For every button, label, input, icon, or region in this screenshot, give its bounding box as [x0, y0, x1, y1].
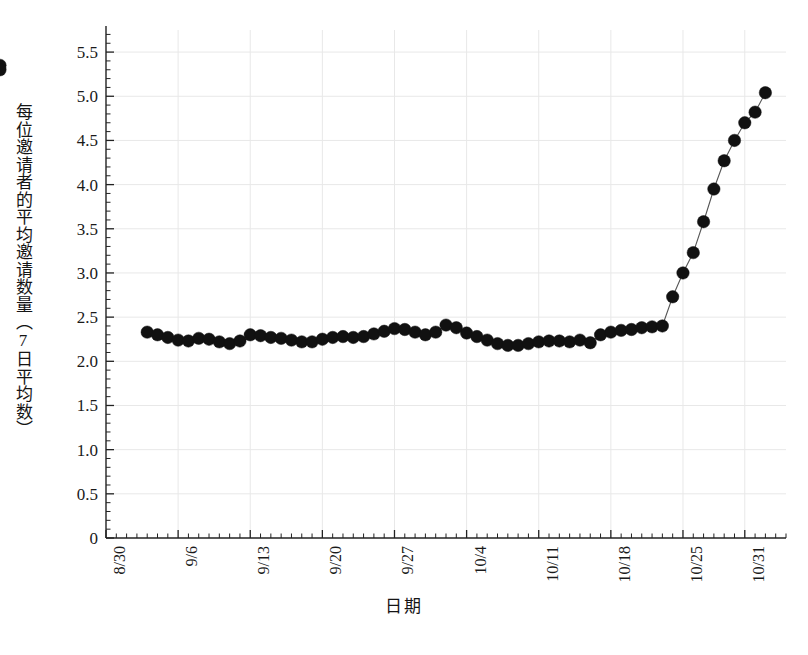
x-axis-tick-label: 10/25 [689, 546, 705, 582]
x-axis-tick-label: 9/13 [256, 546, 272, 574]
data-point-marker [656, 320, 668, 332]
chart-container: 每位邀请者的平均邀请数量（7日平均数） 00.51.01.52.02.53.03… [0, 0, 808, 655]
x-axis-tick-label: 10/11 [545, 546, 561, 582]
x-axis-tick-label: 10/31 [751, 546, 767, 582]
data-point-marker [677, 267, 689, 279]
data-point-marker [728, 134, 740, 146]
data-point-marker [687, 246, 699, 258]
data-point-marker [749, 106, 761, 118]
x-axis-tick-label: 9/6 [184, 546, 200, 566]
x-axis-title: 日期 [0, 592, 808, 617]
x-axis-tick-label: 9/27 [400, 546, 416, 574]
data-point-marker [697, 216, 709, 228]
x-axis-tick-label: 10/18 [617, 546, 633, 582]
x-axis-tick-label: 9/20 [328, 546, 344, 574]
data-point-marker [759, 87, 771, 99]
data-point-marker [430, 326, 442, 338]
data-point-marker [584, 337, 596, 349]
data-point-marker [666, 291, 678, 303]
x-axis-tick-label: 8/30 [112, 546, 128, 574]
data-point-marker [739, 117, 751, 129]
data-point-marker [718, 155, 730, 167]
x-axis-tick-label: 10/4 [473, 546, 489, 574]
series-line [147, 93, 765, 346]
data-point-marker [708, 183, 720, 195]
